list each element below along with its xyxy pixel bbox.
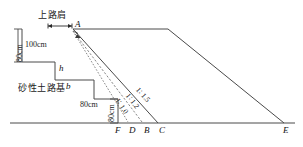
top-horizontal-dimension-label: 100cm	[25, 41, 47, 49]
height-variable-label: h	[59, 64, 64, 73]
point-label-E: E	[283, 126, 289, 135]
embankment-cross-section-diagram: 上路肩 砂性土路基 80cm 100cm h b 80cm 80cm 1∶ 1.…	[0, 0, 303, 147]
upper-shoulder-label: 上路肩	[38, 11, 67, 20]
point-label-A: A	[75, 20, 81, 29]
step-vertical-dimension-label: 80cm	[108, 104, 116, 122]
left-vertical-dimension-label: 80cm	[16, 44, 24, 62]
shoulder-dimension-arrow	[48, 24, 72, 29]
diagram-canvas	[0, 0, 303, 147]
point-label-D: D	[129, 126, 136, 135]
right-slope-line	[168, 29, 284, 123]
sandy-soil-subgrade-label: 砂性土路基	[18, 84, 66, 93]
point-label-F: F	[115, 126, 121, 135]
point-label-B: B	[144, 126, 150, 135]
width-variable-label: b	[66, 82, 71, 91]
point-label-C: C	[159, 126, 165, 135]
step-horizontal-dimension-label: 80cm	[80, 101, 98, 109]
